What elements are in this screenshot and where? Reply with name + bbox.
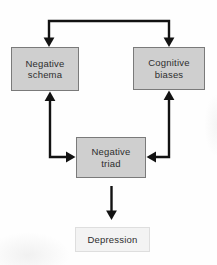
- arrowhead-down-into-depression: [106, 211, 117, 221]
- arrowhead-down-right: [164, 38, 175, 48]
- arrowhead-right-into-triad: [66, 152, 76, 163]
- connector-layer: [0, 0, 217, 265]
- arrowhead-down-left: [44, 38, 55, 48]
- node-depression: Depression: [75, 227, 150, 252]
- arrowhead-up-left: [45, 92, 56, 102]
- arrow-triad-depression: [106, 186, 117, 220]
- scan-smudge: [205, 95, 217, 155]
- cognitive-model-diagram: Negative schema Cognitive biases Negativ…: [0, 0, 217, 265]
- node-negative-schema: Negative schema: [11, 47, 79, 91]
- arrowhead-up-right: [164, 91, 175, 101]
- arrow-biases-triad-bidirectional: [147, 91, 175, 163]
- arrowhead-left-into-triad: [147, 152, 157, 163]
- node-cognitive-biases: Cognitive biases: [133, 47, 205, 90]
- arrow-schema-biases-bidirectional: [44, 21, 175, 47]
- arrow-schema-triad-bidirectional: [45, 92, 76, 163]
- node-negative-triad: Negative triad: [76, 137, 146, 178]
- scan-smudge: [0, 232, 70, 265]
